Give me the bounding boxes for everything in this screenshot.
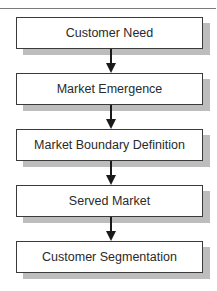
step-label: Customer Segmentation — [42, 250, 177, 264]
step-served-market: Served Market — [16, 185, 203, 217]
step-box: Market Boundary Definition — [16, 129, 203, 161]
step-label: Market Boundary Definition — [34, 138, 185, 152]
step-label: Served Market — [69, 194, 150, 208]
step-box: Customer Need — [16, 17, 203, 49]
step-box: Customer Segmentation — [16, 241, 203, 273]
step-label: Customer Need — [66, 26, 154, 40]
step-label: Market Emergence — [57, 82, 163, 96]
step-market-emergence: Market Emergence — [16, 73, 203, 105]
step-box: Served Market — [16, 185, 203, 217]
step-customer-segmentation: Customer Segmentation — [16, 241, 203, 273]
step-customer-need: Customer Need — [16, 17, 203, 49]
step-box: Market Emergence — [16, 73, 203, 105]
step-market-boundary-definition: Market Boundary Definition — [16, 129, 203, 161]
top-rule-divider — [0, 8, 216, 9]
